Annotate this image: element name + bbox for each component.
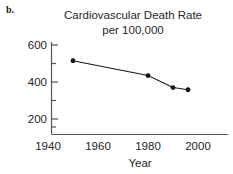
y-tick-label-400: 400 [28,76,47,88]
y-axis-major-ticks [52,45,59,119]
x-tick-label-1980: 1980 [135,140,161,152]
line-chart-plot: 600 400 200 1940 1960 1980 2000 Year [0,0,233,174]
data-point [186,87,191,92]
data-series-line [73,61,188,90]
y-tick-label-200: 200 [28,113,47,125]
data-point [146,73,151,78]
data-point [71,58,76,63]
x-tick-label-1960: 1960 [85,140,111,152]
figure-panel: b. Cardiovascular Death Rate per 100,000… [0,0,233,174]
x-tick-label-1940: 1940 [35,140,61,152]
x-axis-title: Year [128,157,151,169]
data-point [171,85,176,90]
y-axis-minor-ticks [52,64,57,128]
x-tick-label-2000: 2000 [185,140,211,152]
y-tick-label-600: 600 [28,39,47,51]
